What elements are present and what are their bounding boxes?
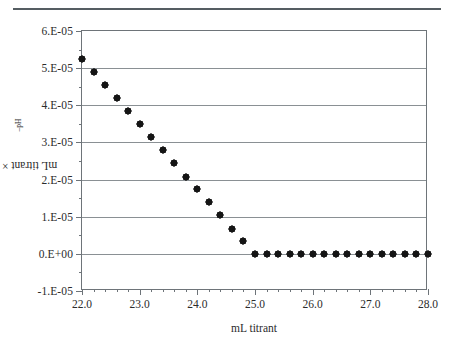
data-point <box>355 250 363 258</box>
y-axis-label: 4.E-05 <box>41 99 73 111</box>
y-axis-tick <box>76 180 82 181</box>
x-axis-minor-tick <box>416 289 417 292</box>
data-point <box>101 81 109 89</box>
x-axis-minor-tick <box>151 289 152 292</box>
x-axis-minor-tick <box>174 289 175 292</box>
x-axis-tick <box>197 289 198 295</box>
x-axis-tick <box>370 289 371 295</box>
y-axis-label: -1.E-05 <box>37 285 73 297</box>
y-axis-tick <box>76 105 82 106</box>
y-axis-minor-tick <box>79 87 82 88</box>
y-axis-label: 1.E-05 <box>41 211 73 223</box>
data-point <box>378 250 386 258</box>
x-axis-label: 22.0 <box>72 298 92 310</box>
y-axis-tick <box>76 142 82 143</box>
x-axis-tick <box>255 289 256 295</box>
y-axis-label: 6.E-05 <box>41 25 73 37</box>
x-axis-title: mL titrant <box>81 322 427 334</box>
y-axis-minor-tick <box>79 124 82 125</box>
gridline <box>82 180 426 181</box>
x-axis-minor-tick <box>117 289 118 292</box>
y-axis-label: 0.E+00 <box>39 248 73 260</box>
y-axis-tick <box>76 254 82 255</box>
data-point <box>366 250 374 258</box>
y-axis-tick <box>76 31 82 32</box>
x-axis-tick <box>313 289 314 295</box>
data-point <box>158 146 166 154</box>
data-point <box>308 250 316 258</box>
y-axis-minor-tick <box>79 161 82 162</box>
x-axis-minor-tick <box>347 289 348 292</box>
x-axis-tick <box>82 289 83 295</box>
x-axis-label: 25.0 <box>245 298 265 310</box>
y-axis-tick <box>76 68 82 69</box>
x-axis-minor-tick <box>94 289 95 292</box>
y-axis-minor-tick <box>79 235 82 236</box>
plot-area: -1.E-050.E+001.E-052.E-053.E-054.E-055.E… <box>81 30 427 290</box>
data-point <box>170 159 178 167</box>
titration-chart: mL titrant × 10–pH -1.E-050.E+001.E-052.… <box>0 0 455 352</box>
x-axis-minor-tick <box>290 289 291 292</box>
x-axis-label: 23.0 <box>130 298 150 310</box>
data-point <box>343 250 351 258</box>
x-axis-minor-tick <box>232 289 233 292</box>
y-axis-tick <box>76 217 82 218</box>
data-point <box>147 133 155 141</box>
y-axis-minor-tick <box>79 198 82 199</box>
x-axis-minor-tick <box>359 289 360 292</box>
data-point <box>412 250 420 258</box>
x-axis-label: 27.0 <box>360 298 380 310</box>
data-point <box>78 55 86 63</box>
x-axis-minor-tick <box>382 289 383 292</box>
x-axis-minor-tick <box>243 289 244 292</box>
data-point <box>124 107 132 115</box>
data-point <box>135 120 143 128</box>
x-axis-minor-tick <box>105 289 106 292</box>
x-axis-label: 26.0 <box>303 298 323 310</box>
x-axis-minor-tick <box>220 289 221 292</box>
x-axis-label: 28.0 <box>418 298 438 310</box>
gridline <box>82 142 426 143</box>
data-point <box>262 250 270 258</box>
data-point <box>401 250 409 258</box>
figure-page: mL titrant × 10–pH -1.E-050.E+001.E-052.… <box>0 0 455 352</box>
x-axis-minor-tick <box>301 289 302 292</box>
data-point <box>424 250 432 258</box>
x-axis-minor-tick <box>209 289 210 292</box>
x-axis-minor-tick <box>128 289 129 292</box>
data-point <box>112 94 120 102</box>
x-axis-minor-tick <box>163 289 164 292</box>
y-axis-minor-tick <box>79 272 82 273</box>
data-point <box>89 68 97 76</box>
data-point <box>389 250 397 258</box>
data-point <box>182 172 190 180</box>
data-point <box>205 198 213 206</box>
x-axis-minor-tick <box>393 289 394 292</box>
x-axis-minor-tick <box>278 289 279 292</box>
y-axis-title-text: mL titrant × 10 <box>0 160 57 172</box>
gridline <box>82 105 426 106</box>
x-axis-tick <box>428 289 429 295</box>
data-point <box>331 250 339 258</box>
y-axis-title-exponent: –pH <box>14 119 23 132</box>
data-point <box>251 250 259 258</box>
data-point <box>228 224 236 232</box>
data-point <box>320 250 328 258</box>
data-point <box>193 185 201 193</box>
y-axis-minor-tick <box>79 50 82 51</box>
y-axis-label: 5.E-05 <box>41 62 73 74</box>
y-axis-label: 3.E-05 <box>41 136 73 148</box>
x-axis-label: 24.0 <box>187 298 207 310</box>
gridline <box>82 217 426 218</box>
x-axis-minor-tick <box>186 289 187 292</box>
data-point <box>297 250 305 258</box>
y-axis-label: 2.E-05 <box>41 174 73 186</box>
data-point <box>285 250 293 258</box>
data-point <box>216 211 224 219</box>
x-axis-minor-tick <box>405 289 406 292</box>
data-point <box>274 250 282 258</box>
x-axis-minor-tick <box>267 289 268 292</box>
x-axis-tick <box>140 289 141 295</box>
y-axis-title: mL titrant × 10–pH <box>10 30 32 290</box>
x-axis-minor-tick <box>324 289 325 292</box>
